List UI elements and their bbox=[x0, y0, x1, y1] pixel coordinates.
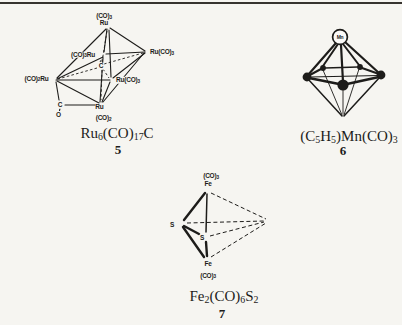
fe2s2-bottom-fe-label: Fe bbox=[204, 261, 212, 268]
cpmn-formula-caption: (C5H5)Mn(CO)3 bbox=[300, 129, 397, 144]
fe2s2-left-s-label: S bbox=[169, 221, 174, 228]
ru6-bridge-o-label: O bbox=[56, 112, 62, 119]
fe2s2-bottom-co3-label: (CO)3 bbox=[200, 272, 217, 279]
ru6-formula-caption: Ru6(CO)17C bbox=[80, 126, 153, 141]
ru6-front-left-ru-label: (CO)2Ru bbox=[24, 75, 49, 82]
mn-atom-label: Mn bbox=[336, 35, 344, 40]
ru6-bottom-ru-label: Ru bbox=[95, 103, 104, 110]
ru6-compound-number: 5 bbox=[115, 143, 122, 156]
cpmn-compound-number: 6 bbox=[340, 144, 347, 157]
ru6-bottom-co2-label: (CO)2 bbox=[95, 115, 112, 122]
fe2s2-top-fe-label: Fe bbox=[204, 180, 212, 187]
figure-page: (CO)3 Ru (CO)3Ru Ru(CO)3 (CO)2Ru Ru(CO)3… bbox=[0, 0, 402, 325]
fe2s2-mid-s-label: S bbox=[199, 235, 204, 242]
ru6-top-ru-label: Ru bbox=[99, 19, 108, 26]
fe2s2-formula-caption: Fe2(CO)6S2 bbox=[190, 289, 259, 304]
fe2s2-compound-number: 7 bbox=[219, 307, 226, 320]
fe2s2-drawing bbox=[183, 193, 266, 257]
ru6-back-right-ru-label: Ru(CO)3 bbox=[150, 49, 175, 56]
ru6-bridge-c-label: C bbox=[57, 102, 63, 109]
ru6-front-right-ru-label: Ru(CO)3 bbox=[116, 77, 141, 84]
cpmn-co3-drawing bbox=[303, 30, 386, 116]
ru6-carbide-c-label: C bbox=[98, 63, 104, 70]
ru6-cluster-drawing bbox=[56, 28, 145, 111]
ru6-back-left-ru-label: (CO)3Ru bbox=[71, 51, 96, 58]
fe2s2-solid-bonds bbox=[183, 193, 207, 257]
